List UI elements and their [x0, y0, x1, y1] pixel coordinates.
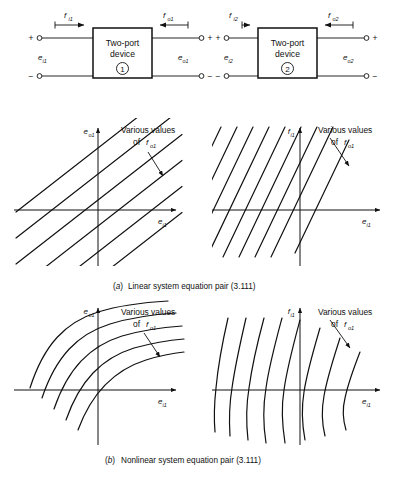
plot-nonlinear-effort-y-label-sub: o1 [89, 312, 95, 318]
device-box-1-title-line2: device [110, 49, 135, 59]
device-2-output-flow-sub: o2 [333, 16, 339, 22]
plot-curve [322, 338, 340, 436]
device-1-input-minus: − [29, 71, 34, 81]
plot-curve [229, 318, 246, 436]
device-2-output-effort-sub: o2 [348, 58, 354, 64]
plot-linear-flow-annotation-line1: Various values [318, 125, 372, 135]
figure-root: Two-port device 1 + − + − f i1 f o1 e i1… [0, 0, 415, 477]
device-2-output-top-terminal [364, 36, 369, 41]
device-1-output-top-terminal [199, 36, 204, 41]
device-1-output-effort-sub: o1 [183, 58, 189, 64]
plot-nonlinear-effort-annotation-sub: o1 [150, 325, 156, 331]
plot-linear-effort-x-label-sub: i1 [163, 222, 167, 228]
plot-line [223, 127, 285, 257]
plot-line [207, 127, 269, 257]
device-2-output-bottom-terminal [364, 74, 369, 79]
device-box-2-number: 2 [285, 65, 290, 74]
device-2-output-flow-label: f [328, 11, 331, 20]
plot-linear-effort-annotation-line2: of [133, 137, 141, 147]
plot-line [16, 135, 182, 265]
plot-linear-effort-annotation-var: f [146, 138, 149, 147]
device-1-input-top-terminal [37, 36, 42, 41]
plot-linear-effort-annotation-line1: Various values [121, 125, 175, 135]
device-2-input-flow-label: f [229, 11, 232, 20]
device-1-input-flow-label: f [64, 11, 67, 20]
device-1-output-minus: − [208, 71, 213, 81]
plot-linear-flow-annotation-sub: o1 [348, 143, 354, 149]
plot-line [16, 187, 182, 317]
caption-a: (a) Linear system equation pair (3.111) [113, 282, 256, 291]
caption-b-text: Nonlinear system equation pair (3.111) [121, 456, 261, 465]
two-port-device-2: Two-port device 2 + − + − f i2 f o2 e i2… [216, 11, 378, 81]
plot-linear-flow-y-label-sub: i1 [291, 132, 295, 138]
plot-line [239, 127, 301, 257]
device-1-output-flow-label: f [163, 11, 166, 20]
device-box-1-title-line1: Two-port [106, 38, 140, 48]
two-port-device-1: Two-port device 1 + − + − f i1 f o1 e i1… [29, 11, 213, 81]
plot-curve [247, 318, 264, 440]
device-2-input-top-terminal [224, 36, 229, 41]
plot-curve [302, 328, 320, 440]
plot-nonlinear-effort-x-label-sub: i1 [163, 402, 167, 408]
caption-a-letter: a [116, 282, 121, 291]
plot-nonlinear-flow: f i1 e i1 Various values of f o1 [212, 307, 380, 445]
plot-line [255, 127, 317, 257]
device-box-2-title-line2: device [275, 49, 300, 59]
caption-b: (b) Nonlinear system equation pair (3.11… [105, 456, 261, 465]
plot-curve [264, 318, 282, 443]
device-2-output-minus: − [373, 71, 378, 81]
caption-a-text: Linear system equation pair (3.111) [128, 282, 256, 291]
plot-curve [54, 326, 182, 409]
device-1-output-plus: + [208, 33, 213, 43]
plot-line [16, 83, 182, 213]
plot-nonlinear-flow-x-label-sub: i1 [367, 402, 371, 408]
plot-nonlinear-flow-annotation-line1: Various values [318, 307, 372, 317]
plot-nonlinear-flow-annotation-arrow [330, 320, 350, 348]
plot-curve [78, 352, 184, 430]
plot-nonlinear-flow-annotation-sub: o1 [348, 325, 354, 331]
plot-line [175, 127, 237, 257]
plot-linear-flow: f i1 e i1 Various values of f o1 [159, 125, 380, 266]
plot-nonlinear-effort-annotation-line1: Various values [121, 307, 175, 317]
plot-curve [343, 352, 360, 430]
device-1-input-flow-sub: i1 [69, 16, 73, 22]
plot-nonlinear-effort-annotation-var: f [146, 320, 149, 329]
plot-line [159, 127, 221, 257]
caption-b-label: (b) [105, 456, 115, 465]
plot-linear-effort-y-label-sub: o1 [89, 132, 95, 138]
device-1-output-flow-sub: o1 [168, 16, 174, 22]
device-1-output-bottom-terminal [199, 74, 204, 79]
device-box-1-number: 1 [120, 65, 125, 74]
plot-nonlinear-effort: e o1 e i1 Various values of f o1 [14, 301, 184, 445]
plot-nonlinear-effort-annotation-line2: of [133, 319, 141, 329]
device-2-output-plus: + [373, 33, 378, 43]
plot-linear-flow-x-label-sub: i1 [367, 222, 371, 228]
plot-nonlinear-flow-series [214, 318, 360, 443]
device-2-input-plus: + [216, 33, 221, 43]
plot-nonlinear-flow-y-label-sub: i1 [291, 312, 295, 318]
device-1-input-bottom-terminal [37, 74, 42, 79]
plot-line [191, 127, 253, 257]
plot-curve [282, 320, 300, 443]
plot-nonlinear-effort-series [30, 301, 184, 430]
plot-curve [66, 339, 184, 420]
caption-b-letter: b [108, 456, 113, 465]
device-1-input-effort-sub: i1 [43, 58, 47, 64]
plot-curve [214, 318, 228, 432]
plot-linear-effort: e o1 e i1 Various values of f o1 [14, 83, 182, 343]
device-2-input-flow-sub: i2 [234, 16, 238, 22]
plot-line [16, 213, 182, 343]
plot-linear-effort-annotation-sub: o1 [150, 143, 156, 149]
device-1-input-plus: + [29, 33, 34, 43]
device-2-input-bottom-terminal [224, 74, 229, 79]
plot-linear-flow-series [159, 127, 349, 257]
device-2-input-effort-sub: i2 [229, 58, 233, 64]
plot-linear-effort-series [16, 83, 182, 343]
device-2-input-minus: − [216, 71, 221, 81]
plot-nonlinear-flow-annotation-var: f [344, 320, 347, 329]
figure-canvas: Two-port device 1 + − + − f i1 f o1 e i1… [0, 0, 415, 477]
device-box-2-title-line1: Two-port [271, 38, 305, 48]
caption-a-label: (a) [113, 282, 123, 291]
